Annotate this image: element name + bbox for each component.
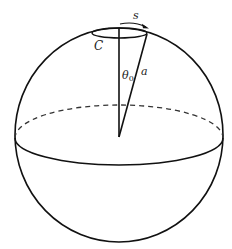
sphere-diagram: s C θ0 a <box>0 0 232 249</box>
label-c: C <box>94 39 103 53</box>
equator-front <box>15 138 223 165</box>
label-theta0: θ0 <box>122 69 134 83</box>
label-s: s <box>133 9 139 22</box>
label-theta-subscript: 0 <box>129 74 134 83</box>
label-a: a <box>141 65 148 78</box>
arc-s-arrow <box>120 23 146 27</box>
radius-line-a <box>119 34 147 137</box>
arrowhead-icon <box>142 24 149 29</box>
